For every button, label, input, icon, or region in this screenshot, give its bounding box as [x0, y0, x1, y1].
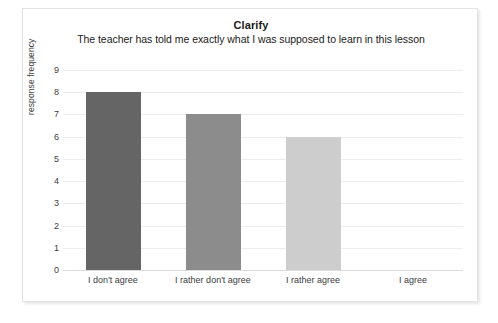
y-axis-tick-label: 0	[19, 265, 59, 275]
y-axis-tick-label: 1	[19, 243, 59, 253]
x-axis-category-labels: I don't agreeI rather don't agreeI rathe…	[63, 275, 463, 291]
x-axis-category-label: I agree	[363, 275, 463, 285]
bar	[186, 114, 241, 270]
x-axis-category-label: I don't agree	[63, 275, 163, 285]
chart-title-block: Clarify The teacher has told me exactly …	[23, 18, 479, 46]
y-axis-tick-label: 3	[19, 198, 59, 208]
y-axis-tick-label: 8	[19, 87, 59, 97]
x-axis-category-label: I rather don't agree	[163, 275, 263, 285]
bar	[286, 137, 341, 270]
chart-frame: Clarify The teacher has told me exactly …	[22, 8, 478, 302]
y-axis-tick-label: 2	[19, 221, 59, 231]
x-axis-category-label: I rather agree	[263, 275, 363, 285]
plot-area: 0123456789	[63, 70, 463, 270]
y-axis-title: response frequency	[26, 0, 36, 115]
bar	[86, 92, 141, 270]
chart-title: Clarify	[23, 18, 479, 32]
y-axis-tick-label: 4	[19, 176, 59, 186]
chart-subtitle: The teacher has told me exactly what I w…	[23, 32, 479, 46]
y-axis-tick-label: 7	[19, 109, 59, 119]
gridline	[63, 270, 463, 271]
y-axis-tick-label: 6	[19, 132, 59, 142]
y-axis-tick-label: 5	[19, 154, 59, 164]
y-axis-tick-label: 9	[19, 65, 59, 75]
gridline	[63, 70, 463, 71]
